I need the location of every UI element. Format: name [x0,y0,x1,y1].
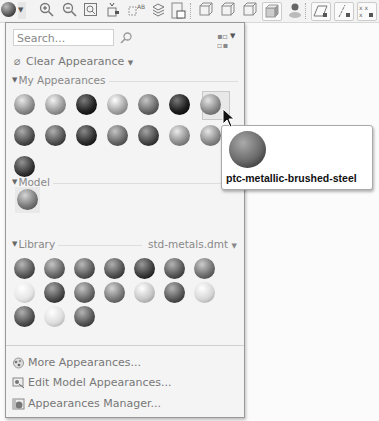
tooltip-label: ptc-metallic-brushed-steel [226,172,357,184]
library-appearance-swatch[interactable] [104,258,125,279]
appearance-gallery-panel: Search... ▪▫▫▪ ▼ ⌀Clear Appearance ▼ ▼My… [5,22,245,418]
menu-item-label: Appearances Manager... [28,397,161,410]
refit-icon[interactable] [82,2,99,19]
display-style-shading-button[interactable] [262,2,282,21]
clear-appearance-label: Clear Appearance [26,55,124,68]
display-style-hidden-icon[interactable] [219,2,236,19]
plane-display-icon [312,3,329,19]
my-appearance-swatch[interactable] [138,94,159,115]
my-appearances-label: My Appearances [18,74,105,86]
zoom-out-icon[interactable] [61,2,78,19]
chevron-down-icon: ▼ [231,242,236,250]
my-appearance-swatch[interactable] [107,125,128,146]
appearances-manager-menu-item[interactable]: Appearances Manager... [12,397,161,410]
model-header[interactable]: ▼Model [12,176,238,188]
my-appearance-swatch[interactable] [169,125,190,146]
library-appearance-swatch[interactable] [44,282,65,303]
view-mode-icon[interactable]: ▪▫▫▪ [217,32,228,50]
library-appearance-swatch[interactable] [164,258,185,279]
library-appearance-swatch[interactable] [14,282,35,303]
library-appearance-swatch[interactable] [14,306,35,327]
toolbar-separator [305,3,307,19]
menu-divider [6,345,244,346]
library-appearance-swatch[interactable] [74,282,95,303]
appearance-dropdown-arrow[interactable]: ▼ [18,2,26,19]
library-appearance-swatch[interactable] [104,282,125,303]
appearance-gallery-button[interactable] [1,2,16,17]
my-appearance-swatch[interactable] [14,94,35,115]
my-appearance-swatch[interactable] [200,94,221,115]
collapse-arrow-icon: ▼ [12,178,17,186]
zoom-in-icon[interactable] [38,2,55,19]
library-header[interactable]: ▼Library [12,238,142,250]
toolbar-separator [190,3,192,19]
my-appearance-swatch[interactable] [107,94,128,115]
library-appearance-swatch[interactable] [74,306,95,327]
view-manager-icon[interactable] [170,2,187,19]
appearances-manager-icon [12,398,25,410]
my-appearance-swatch[interactable] [76,125,97,146]
more-appearances-icon [12,357,25,369]
my-appearance-swatch[interactable] [14,156,35,177]
library-appearance-swatch[interactable] [134,258,155,279]
library-appearance-swatch[interactable] [44,258,65,279]
search-input[interactable]: Search... [13,29,114,46]
library-file-label: std-metals.dmt [148,238,228,250]
axis-display-button[interactable] [334,2,354,21]
display-style-wireframe-icon[interactable] [197,2,214,19]
library-appearance-swatch[interactable] [164,282,185,303]
view-mode-arrow-icon[interactable]: ▼ [230,32,235,40]
appearance-tooltip: ptc-metallic-brushed-steel [221,125,373,190]
library-file-dropdown[interactable]: std-metals.dmt ▼ [148,238,237,250]
axis-display-icon [335,3,352,19]
library-appearance-swatch[interactable] [74,258,95,279]
collapse-arrow-icon: ▼ [12,76,17,84]
reorient-icon[interactable] [104,2,121,19]
edit-model-appearances-menu-item[interactable]: Edit Model Appearances... [12,376,172,389]
my-appearance-swatch[interactable] [138,125,159,146]
my-appearances-header[interactable]: ▼My Appearances [12,74,238,86]
toolbar: ▼ AB x xx [0,0,379,23]
edit-appearances-icon [12,377,25,389]
svg-text:x: x [359,11,363,18]
library-appearance-swatch[interactable] [44,306,65,327]
collapse-arrow-icon: ▼ [12,240,17,248]
library-appearance-swatch[interactable] [194,282,215,303]
chevron-down-icon: ▼ [128,59,133,67]
my-appearance-swatch[interactable] [14,125,35,146]
my-appearance-swatch[interactable] [200,125,221,146]
saved-views-icon[interactable]: AB [128,2,145,19]
my-appearance-swatch[interactable] [169,94,190,115]
library-label: Library [18,238,55,250]
more-appearances-menu-item[interactable]: More Appearances... [12,356,141,369]
my-appearance-swatch[interactable] [76,94,97,115]
menu-item-label: Edit Model Appearances... [28,376,172,389]
svg-text:AB: AB [137,3,145,10]
library-appearance-swatch[interactable] [194,258,215,279]
mouse-cursor-icon [222,108,236,128]
library-appearance-swatch[interactable] [14,258,35,279]
point-display-button[interactable]: x xx [357,2,377,21]
tooltip-sphere-preview [229,131,266,168]
svg-text:x x: x x [359,4,368,11]
my-appearance-swatch[interactable] [45,125,66,146]
eraser-icon: ⌀ [14,55,26,68]
model-appearance-swatch[interactable] [17,189,38,210]
shading-icon [263,3,280,19]
clear-appearance-button[interactable]: ⌀Clear Appearance ▼ [14,55,133,68]
my-appearance-swatch[interactable] [45,94,66,115]
library-appearance-swatch[interactable] [134,282,155,303]
search-icon[interactable] [119,30,133,44]
display-style-nohidden-icon[interactable] [241,2,258,19]
plane-display-button[interactable] [311,2,331,21]
perspective-icon[interactable] [287,2,304,19]
menu-item-label: More Appearances... [28,356,141,369]
point-display-icon: x xx [358,3,375,19]
layers-icon[interactable] [150,2,167,19]
